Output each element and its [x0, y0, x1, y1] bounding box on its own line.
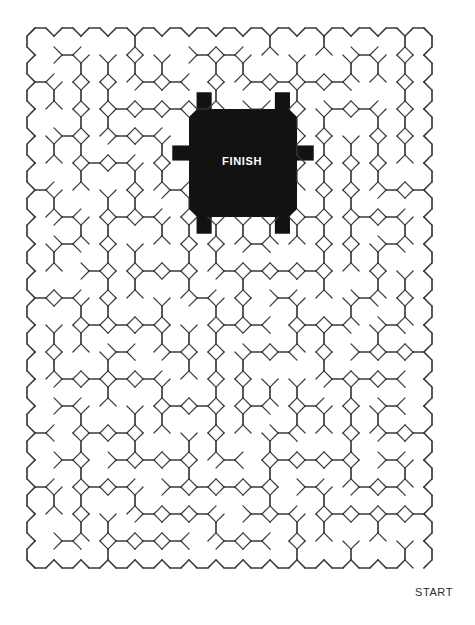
maze-canvas [0, 0, 475, 625]
start-label: START [415, 586, 453, 598]
maze-page: . . FINISH START [0, 0, 475, 625]
canvas-background [0, 0, 475, 625]
finish-label: FINISH [222, 155, 262, 167]
